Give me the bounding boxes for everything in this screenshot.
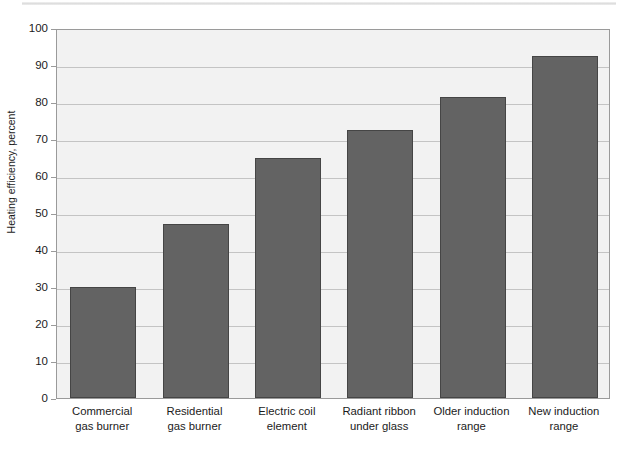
x-tick-label: Electric coilelement	[241, 404, 333, 433]
x-tick-label-line: element	[241, 419, 333, 434]
x-tick-label-line: under glass	[333, 419, 425, 434]
y-tick-label: 10	[8, 356, 48, 367]
y-tick-mark	[51, 177, 56, 178]
x-tick-label: Radiant ribbonunder glass	[333, 404, 425, 433]
bar-chart-figure: 0102030405060708090100 Heating efficienc…	[0, 0, 638, 456]
x-tick-label-line: New induction	[518, 404, 610, 419]
y-axis-title: Heating efficiency, percent	[5, 57, 17, 287]
y-tick-mark	[51, 288, 56, 289]
y-tick-mark	[51, 399, 56, 400]
x-tick-label-line: Radiant ribbon	[333, 404, 425, 419]
y-tick-mark	[51, 214, 56, 215]
y-tick-mark	[51, 251, 56, 252]
x-tick-label-line: gas burner	[56, 419, 148, 434]
y-tick-mark	[51, 140, 56, 141]
x-axis: Commercialgas burnerResidentialgas burne…	[56, 404, 610, 444]
y-tick-mark	[51, 103, 56, 104]
x-tick-label: Older inductionrange	[425, 404, 517, 433]
x-tick-label-line: Electric coil	[241, 404, 333, 419]
y-tick-mark	[51, 325, 56, 326]
x-tick-label: Commercialgas burner	[56, 404, 148, 433]
y-tick-mark	[51, 362, 56, 363]
x-tick-label-line: gas burner	[148, 419, 240, 434]
x-tick-label-line: Older induction	[425, 404, 517, 419]
y-axis: 0102030405060708090100	[0, 0, 638, 456]
x-tick-label-line: range	[518, 419, 610, 434]
x-tick-label-line: range	[425, 419, 517, 434]
x-tick-label: New inductionrange	[518, 404, 610, 433]
y-tick-mark	[51, 66, 56, 67]
y-tick-mark	[51, 29, 56, 30]
x-tick-label-line: Residential	[148, 404, 240, 419]
y-tick-label: 0	[8, 393, 48, 404]
y-tick-label: 20	[8, 319, 48, 330]
x-tick-label-line: Commercial	[56, 404, 148, 419]
y-tick-label: 100	[8, 23, 48, 34]
x-tick-label: Residentialgas burner	[148, 404, 240, 433]
